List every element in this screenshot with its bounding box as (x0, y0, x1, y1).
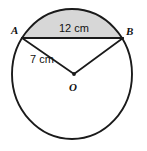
chord-length-label: 12 cm (59, 23, 89, 34)
center-point-dot (72, 72, 76, 76)
radius-length-label: 7 cm (30, 54, 54, 65)
radius-ob-line (74, 38, 123, 74)
point-label-b: B (126, 26, 133, 37)
geometry-figure: A B O 12 cm 7 cm (0, 0, 147, 151)
point-label-a: A (11, 25, 18, 36)
point-label-o: O (69, 82, 77, 93)
